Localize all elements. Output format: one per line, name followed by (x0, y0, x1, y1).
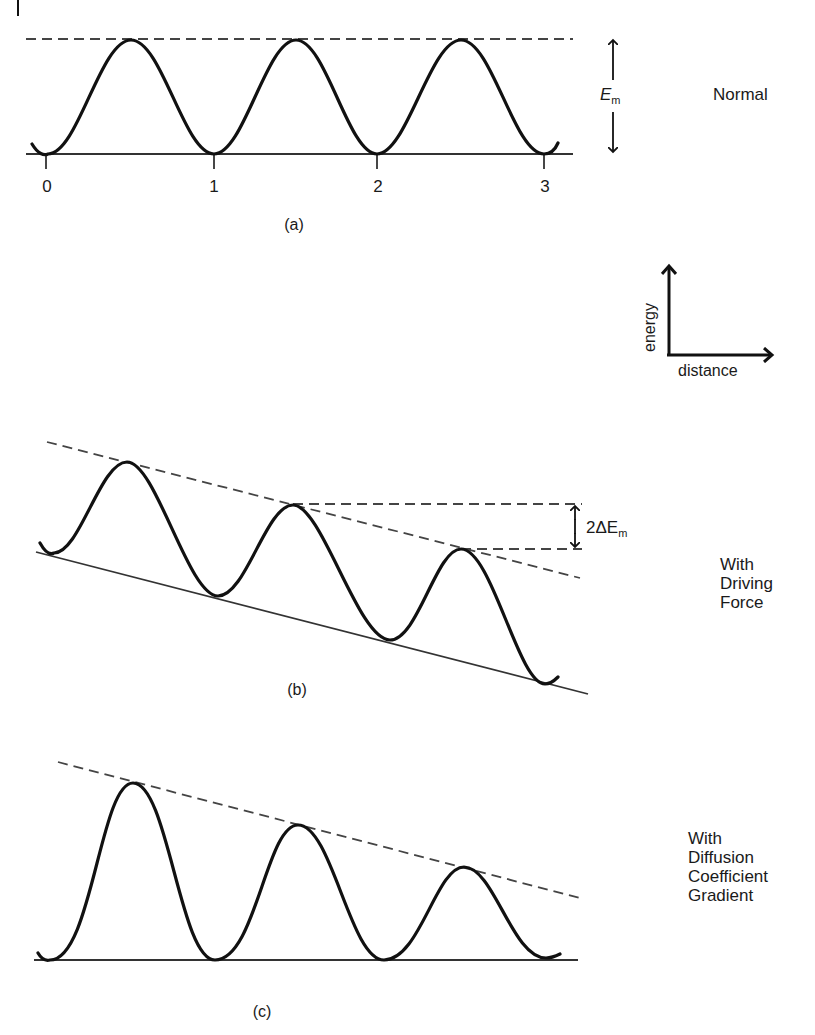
caption-b: (b) (287, 681, 307, 699)
tick-label-0: 0 (42, 177, 51, 197)
label-line: Force (720, 593, 773, 612)
label-line: Diffusion (688, 848, 768, 867)
tick-label-2: 2 (373, 177, 382, 197)
distance-axis-label: distance (678, 361, 738, 380)
label-line: Driving (720, 574, 773, 593)
em-symbol: E (600, 85, 611, 104)
energy-curve-a (32, 40, 558, 155)
caption-c: (c) (253, 1003, 272, 1021)
label-line: Gradient (688, 886, 768, 905)
label-line: Coefficient (688, 867, 768, 886)
tick-label-3: 3 (540, 177, 549, 197)
energy-axis-label: energy (640, 303, 659, 352)
label-line: With (688, 829, 768, 848)
delta-em-label: 2ΔEm (586, 518, 627, 543)
panel-a (26, 39, 613, 169)
em-subscript: m (611, 94, 620, 106)
label-driving-force: With Driving Force (720, 555, 773, 612)
delta-symbol: 2ΔE (586, 518, 618, 537)
label-line: With (720, 555, 773, 574)
panel-b (36, 442, 588, 694)
label-normal: Normal (713, 85, 768, 104)
tick-marks (46, 154, 544, 169)
delta-subscript: m (618, 527, 627, 539)
panel-c (34, 762, 580, 960)
em-label: Em (600, 85, 621, 110)
tick-label-1: 1 (209, 177, 218, 197)
caption-a: (a) (284, 216, 304, 234)
sloped-baseline (36, 552, 588, 694)
label-diffusion-gradient: With Diffusion Coefficient Gradient (688, 829, 768, 905)
axes-key (667, 266, 772, 356)
